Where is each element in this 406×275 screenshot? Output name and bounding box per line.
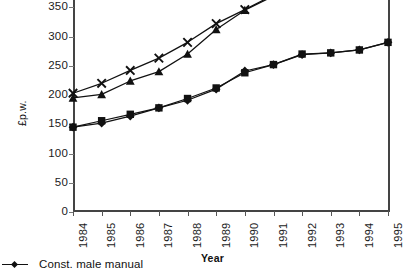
x-tick-label: 1990 <box>249 223 260 248</box>
series-3 <box>69 39 391 131</box>
y-tick-label-text: 150 <box>48 118 68 130</box>
chart-screenshot: 050100150200250300350400 198419851986198… <box>0 0 406 275</box>
series-line <box>73 0 302 93</box>
marker-square <box>270 61 277 68</box>
series-plot <box>73 0 390 212</box>
y-tick-label-text: 0 <box>61 206 68 218</box>
series-line <box>73 0 302 98</box>
marker-square <box>69 123 76 130</box>
series-0 <box>69 0 306 97</box>
marker-square <box>98 117 105 124</box>
x-tick-label: 1984 <box>78 223 89 248</box>
x-tick-label: 1987 <box>163 223 174 248</box>
marker-square <box>127 111 134 118</box>
marker-triangle <box>97 90 106 98</box>
marker-triangle <box>155 67 164 75</box>
marker-square <box>241 69 248 76</box>
y-tick-label-text: 100 <box>48 148 68 160</box>
y-axis-title: £p.w. <box>16 100 28 126</box>
legend-diamond-icon <box>2 258 28 270</box>
marker-square <box>327 49 334 56</box>
x-tick-label: 1985 <box>106 223 117 248</box>
x-tick-label: 1994 <box>364 223 375 248</box>
x-tick-label: 1988 <box>192 223 203 248</box>
marker-square <box>356 46 363 53</box>
x-tick-label: 1992 <box>307 223 318 248</box>
marker-square <box>184 95 191 102</box>
series-line <box>73 42 388 127</box>
legend-item[interactable]: Const. male manual <box>2 258 143 270</box>
marker-triangle <box>126 77 135 85</box>
marker-square <box>212 84 219 91</box>
chart-legend: Const. male manual <box>0 258 406 275</box>
x-tick-label: 1993 <box>335 223 346 248</box>
marker-square <box>155 104 162 111</box>
x-tick-label: 1995 <box>393 223 404 248</box>
x-tick-label: 1986 <box>135 223 146 248</box>
marker-x <box>183 38 191 46</box>
y-tick-label-text: 50 <box>55 177 68 189</box>
marker-x <box>155 54 163 62</box>
y-tick-label-text: 250 <box>48 60 68 72</box>
series-line <box>73 42 388 127</box>
legend-item-label: Const. male manual <box>39 258 143 270</box>
marker-square <box>298 50 305 57</box>
x-tick-label: 1991 <box>278 223 289 248</box>
marker-x <box>126 66 134 74</box>
y-tick-label-text: 300 <box>48 31 68 43</box>
y-tick-label-text: 200 <box>48 89 68 101</box>
marker-square <box>384 39 391 46</box>
y-tick-label-text: 350 <box>48 1 68 13</box>
x-tick-label: 1989 <box>221 223 232 248</box>
marker-x <box>97 79 105 87</box>
plot-area <box>73 0 390 212</box>
